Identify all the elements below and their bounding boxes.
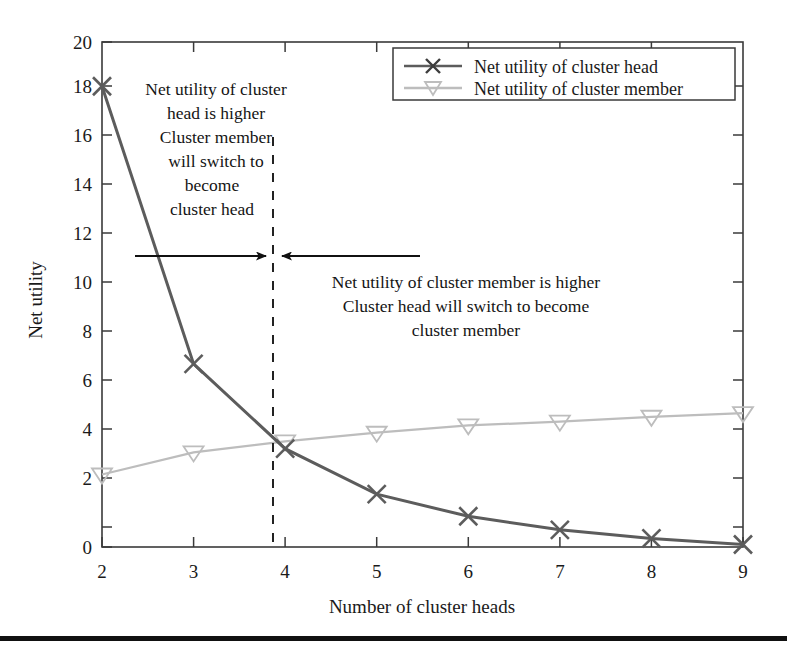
left-annotation-line: cluster head	[170, 199, 254, 219]
y-tick-label: 12	[73, 223, 92, 244]
x-marker-icon	[276, 440, 294, 458]
y-tick-label: 0	[83, 537, 93, 558]
y-tick-label: 6	[83, 370, 93, 391]
y-tick-label: 10	[73, 272, 92, 293]
right-annotation-line: Net utility of cluster member is higher	[332, 272, 600, 292]
left-annotation-line: become	[185, 175, 240, 195]
x-tick-label: 6	[464, 561, 474, 582]
right-annotation-line: cluster member	[412, 320, 521, 340]
y-tick-label: 2	[83, 468, 93, 489]
x-tick-label: 8	[647, 561, 657, 582]
y-tick-labels: 0 2 4 6 8 10 12 14 16 18 20	[73, 32, 93, 558]
left-annotation-line: Net utility of cluster	[145, 79, 287, 99]
x-tick-label: 9	[738, 561, 748, 582]
left-annotation-line: will switch to	[168, 151, 264, 171]
net-utility-line-chart: 0 2 4 6 8 10 12 14 16 18 20 2 3 4 5 6 7 …	[0, 0, 787, 652]
x-tick-label: 4	[280, 561, 290, 582]
y-tick-label: 18	[73, 76, 92, 97]
series-cluster-member	[92, 407, 753, 483]
y-tick-label: 14	[73, 174, 93, 195]
x-marker-icon	[368, 485, 386, 503]
y-tick-label: 20	[73, 32, 92, 53]
y-axis-title: Net utility	[25, 261, 46, 339]
left-annotation-line: head is higher	[167, 103, 265, 123]
y-tick-label: 8	[83, 321, 93, 342]
chart-figure: 0 2 4 6 8 10 12 14 16 18 20 2 3 4 5 6 7 …	[0, 0, 787, 652]
x-tick-label: 3	[189, 561, 199, 582]
x-marker-icon	[185, 355, 203, 373]
x-tick-labels: 2 3 4 5 6 7 8 9	[97, 561, 748, 582]
x-axis-title: Number of cluster heads	[329, 596, 515, 617]
x-tick-label: 7	[555, 561, 565, 582]
legend: Net utility of cluster head Net utility …	[393, 48, 735, 100]
right-annotation-line: Cluster head will switch to become	[343, 296, 590, 316]
y-tick-label: 4	[83, 419, 93, 440]
right-annotation: Net utility of cluster member is higher …	[332, 272, 600, 340]
legend-label: Net utility of cluster head	[474, 57, 658, 77]
page-bottom-rule	[0, 636, 787, 641]
triangle-down-marker-icon	[550, 416, 570, 431]
left-annotation-line: Cluster member	[160, 127, 272, 147]
legend-label: Net utility of cluster member	[474, 79, 683, 99]
x-tick-label: 5	[372, 561, 382, 582]
left-annotation: Net utility of cluster head is higher Cl…	[145, 79, 287, 219]
x-tick-label: 2	[97, 561, 107, 582]
y-tick-label: 16	[73, 125, 92, 146]
